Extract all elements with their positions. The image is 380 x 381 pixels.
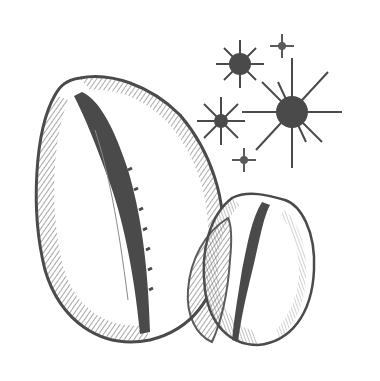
star-large xyxy=(242,58,342,168)
cowrie-shells-illustration xyxy=(0,0,380,381)
star-mid-left xyxy=(197,97,245,145)
star-top-small xyxy=(270,34,294,58)
star-bottom-small xyxy=(232,148,256,172)
star-top-left xyxy=(216,40,264,88)
